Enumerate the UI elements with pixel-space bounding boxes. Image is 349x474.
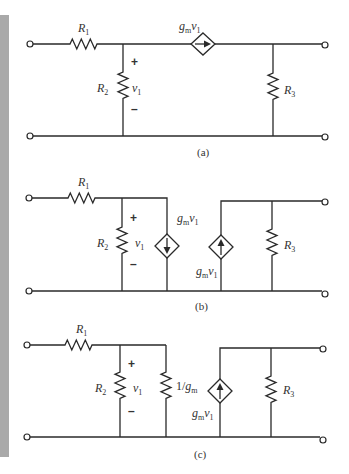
circuit-b: R1 R2 R3 v1 + – gmv1 gmv1 (b): [26, 175, 328, 313]
terminal: [27, 133, 33, 139]
source-right-label: gmv1: [196, 264, 218, 280]
terminal: [24, 434, 30, 440]
r2-label: R2: [96, 81, 108, 97]
minus-sign: –: [130, 257, 137, 271]
source-label: gmv1: [179, 19, 201, 35]
terminal: [26, 195, 32, 201]
terminal: [320, 437, 326, 443]
dependent-current-source-up: [208, 379, 232, 403]
terminal: [322, 134, 328, 140]
r1-resistor: [31, 193, 167, 234]
terminal: [27, 41, 33, 47]
gm-inverse-resistor: [161, 345, 171, 437]
r2-resistor: [117, 198, 127, 291]
circuit-c: R1 R2 R3 v1 + – 1/gm gmv1 (c): [24, 322, 326, 461]
dependent-current-source-down: [155, 234, 179, 258]
terminal: [320, 346, 326, 352]
circuit-a: R1 R2 R3 v1 + – gmv1 (a): [27, 19, 328, 159]
arrow-right-icon: [204, 41, 211, 48]
r1-label: R1: [77, 21, 89, 37]
r1-label: R1: [75, 322, 87, 338]
source-left-label: gmv1: [177, 211, 199, 227]
minus-sign: –: [131, 102, 138, 116]
gm-inverse-label: 1/gm: [176, 379, 198, 395]
dependent-current-source: [191, 33, 215, 55]
r1-label: R1: [77, 175, 89, 191]
plus-sign: +: [128, 357, 135, 371]
caption-b: (b): [195, 300, 208, 313]
plus-sign: +: [131, 55, 138, 69]
v1-label: v1: [135, 236, 144, 252]
arrow-down-icon: [164, 247, 171, 254]
minus-sign: –: [128, 404, 135, 418]
dependent-current-source-up: [209, 235, 233, 259]
terminal: [322, 42, 328, 48]
r2-label: R2: [96, 236, 108, 252]
r1-resistor: [28, 340, 166, 350]
arrow-up-icon: [217, 383, 224, 390]
r2-label: R2: [94, 381, 106, 397]
r3-resistor: [268, 44, 278, 136]
terminal: [322, 199, 328, 205]
circuit-figure: R1 R2 R3 v1 + – gmv1 (a) R1 R2: [0, 0, 349, 474]
terminal: [24, 342, 30, 348]
r3-resistor: [267, 201, 277, 291]
r2-resistor: [118, 44, 128, 136]
r3-label: R3: [283, 83, 295, 99]
r3-resistor: [266, 348, 276, 437]
v1-label: v1: [132, 81, 141, 97]
r2-resistor: [115, 345, 125, 437]
r3-label: R3: [282, 383, 294, 399]
right-source-wire: [220, 348, 320, 437]
arrow-up-icon: [218, 239, 225, 246]
source-right-label: gmv1: [192, 406, 214, 422]
caption-c: (c): [194, 448, 207, 461]
caption-a: (a): [197, 146, 210, 159]
terminal: [26, 288, 32, 294]
r3-label: R3: [283, 238, 295, 254]
r1-resistor: [33, 39, 191, 49]
v1-label: v1: [133, 381, 142, 397]
plus-sign: +: [130, 211, 137, 225]
terminal: [322, 291, 328, 297]
